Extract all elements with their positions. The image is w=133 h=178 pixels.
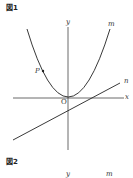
point-p-label: P xyxy=(35,67,40,75)
figure-2-title: 図2 xyxy=(6,156,18,166)
point-p xyxy=(42,70,44,72)
x-axis-label: x xyxy=(125,93,129,101)
y-axis-label: y xyxy=(66,18,70,26)
m-curve-label: m xyxy=(108,20,115,28)
n-line-label: n xyxy=(124,77,129,85)
figure-2-y-label: y xyxy=(66,170,70,178)
line-n xyxy=(13,83,120,140)
origin-label: O xyxy=(61,98,67,106)
parabola-m xyxy=(27,29,110,97)
figure-2-m-label: m xyxy=(106,170,113,178)
